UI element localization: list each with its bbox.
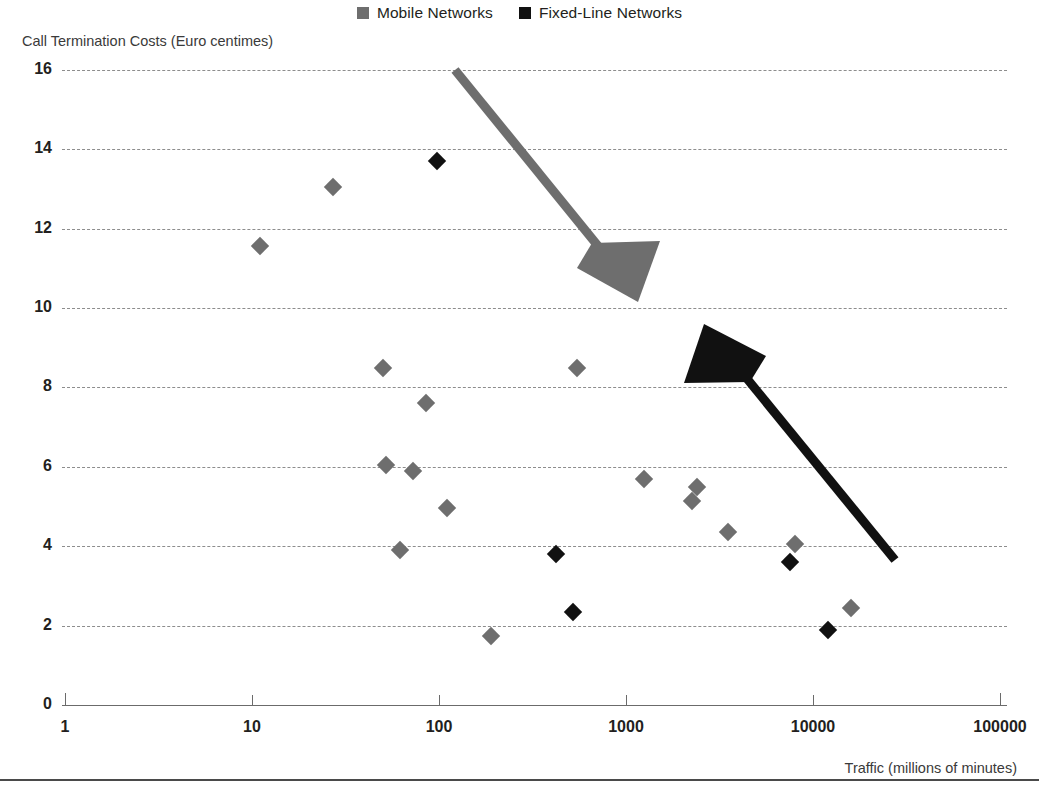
x-tick-mark-1	[65, 693, 66, 705]
y-tick-label-2: 2	[8, 616, 52, 634]
data-point-mobile-13	[719, 523, 737, 541]
data-point-mobile-8	[482, 626, 500, 644]
x-tick-label-1: 1	[61, 718, 70, 736]
data-point-mobile-4	[391, 541, 409, 559]
x-tick-mark-10	[252, 695, 253, 705]
x-tick-label-100000: 100000	[973, 718, 1026, 736]
x-tick-label-10000: 10000	[791, 718, 836, 736]
x-tick-mark-100000	[1000, 693, 1001, 705]
data-point-fixed-0	[428, 152, 446, 170]
y-tick-label-12: 12	[8, 219, 52, 237]
y-tick-label-8: 8	[8, 377, 52, 395]
gridline-y-16	[62, 70, 1007, 71]
data-point-fixed-2	[564, 603, 582, 621]
gridline-y-8	[62, 387, 1007, 388]
data-point-mobile-5	[404, 462, 422, 480]
data-point-mobile-3	[377, 456, 395, 474]
x-axis-line	[62, 705, 1007, 706]
gridline-y-4	[62, 546, 1007, 547]
gridline-y-6	[62, 467, 1007, 468]
data-point-fixed-1	[546, 545, 564, 563]
y-tick-label-0: 0	[8, 695, 52, 713]
x-tick-mark-100	[439, 695, 440, 705]
gridline-y-12	[62, 229, 1007, 230]
data-point-mobile-0	[251, 237, 269, 255]
chart-root: Mobile Networks Fixed-Line Networks Call…	[0, 0, 1039, 788]
plot-area: 0246810121416110100100010000100000	[0, 0, 1039, 788]
x-tick-label-100: 100	[426, 718, 453, 736]
gridline-y-14	[62, 149, 1007, 150]
data-point-mobile-2	[374, 358, 392, 376]
data-point-mobile-1	[323, 178, 341, 196]
x-tick-label-1000: 1000	[608, 718, 644, 736]
data-point-mobile-10	[635, 470, 653, 488]
gridline-y-10	[62, 308, 1007, 309]
data-point-fixed-3	[780, 553, 798, 571]
y-tick-label-4: 4	[8, 536, 52, 554]
y-tick-label-6: 6	[8, 457, 52, 475]
x-tick-mark-1000	[626, 695, 627, 705]
gridline-y-2	[62, 626, 1007, 627]
data-point-fixed-4	[819, 620, 837, 638]
y-tick-label-14: 14	[8, 139, 52, 157]
data-point-mobile-15	[842, 599, 860, 617]
data-point-mobile-7	[438, 499, 456, 517]
footer-rule	[0, 779, 1039, 781]
x-tick-mark-10000	[813, 695, 814, 705]
data-point-mobile-9	[568, 358, 586, 376]
data-point-mobile-6	[417, 394, 435, 412]
y-tick-label-16: 16	[8, 60, 52, 78]
data-point-mobile-14	[786, 535, 804, 553]
x-tick-label-10: 10	[243, 718, 261, 736]
y-tick-label-10: 10	[8, 298, 52, 316]
